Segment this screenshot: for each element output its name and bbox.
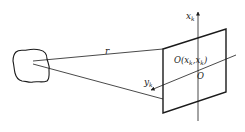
label-origin: O	[197, 71, 204, 81]
projection-diagram: xk r O(xk,xk) O yk	[0, 0, 245, 132]
image-plane	[163, 29, 226, 113]
object-blob	[13, 49, 49, 82]
label-x-axis: xk	[186, 11, 195, 22]
label-y-axis: yk	[143, 77, 153, 88]
range-line-r	[33, 49, 163, 61]
label-range-r: r	[105, 46, 110, 56]
label-center-point: O(xk,xk)	[174, 55, 207, 66]
